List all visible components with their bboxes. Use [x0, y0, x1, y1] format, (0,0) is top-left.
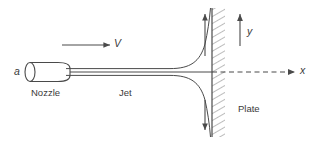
- velocity-label: V: [114, 38, 121, 49]
- jet-upper-streamline: [66, 8, 211, 69]
- nozzle-mouth-ellipse: [25, 63, 35, 82]
- jet-impingement-diagram: a Nozzle Jet V y x Plate: [0, 0, 316, 145]
- nozzle-label: Nozzle: [31, 88, 60, 98]
- x-axis-label: x: [300, 65, 305, 76]
- plate-label: Plate: [238, 104, 260, 114]
- jet-streamlines: [66, 8, 212, 137]
- nozzle-diameter-label: a: [14, 66, 20, 77]
- jet-lower-streamline: [66, 75, 211, 137]
- y-axis-label: y: [247, 26, 252, 37]
- diagram-canvas: [0, 0, 316, 145]
- nozzle-outline: [30, 63, 70, 82]
- jet-label: Jet: [119, 88, 132, 98]
- nozzle-body: [25, 63, 70, 82]
